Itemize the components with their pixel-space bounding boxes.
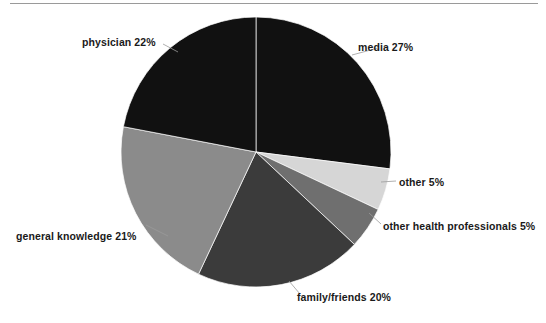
pie-chart-svg <box>0 0 546 323</box>
slice-label-other: other 5% <box>399 176 444 188</box>
pie-slices-group <box>121 17 391 287</box>
slice-label-general-knowledge: general knowledge 21% <box>16 230 137 242</box>
pie-slice-media[interactable] <box>256 17 391 169</box>
slice-label-physician: physician 22% <box>82 36 156 48</box>
slice-label-other-health-professionals: other health professionals 5% <box>383 220 535 232</box>
chart-figure: media 27% physician 22% other 5% other h… <box>0 0 546 323</box>
slice-label-family-friends: family/friends 20% <box>297 291 391 303</box>
slice-label-media: media 27% <box>358 41 413 53</box>
